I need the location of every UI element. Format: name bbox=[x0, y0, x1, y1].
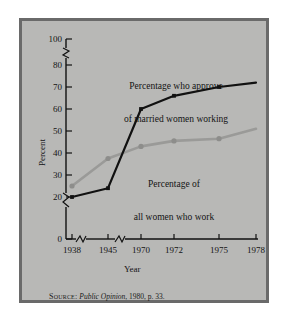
y-tick-label-0: 0 bbox=[42, 234, 62, 244]
annotation-approve-line2: of married women working bbox=[106, 114, 246, 125]
y-tick-label-20: 20 bbox=[42, 192, 62, 202]
annotation-all-women-line2: all women who work bbox=[120, 212, 228, 223]
annotation-all-women-line1: Percentage of bbox=[120, 179, 228, 190]
y-tick-label-100: 100 bbox=[42, 34, 62, 44]
chart-plot-area: 100 80 70 60 50 40 30 20 0 1938 1945 197… bbox=[22, 21, 266, 300]
figure-page: 100 80 70 60 50 40 30 20 0 1938 1945 197… bbox=[0, 0, 290, 326]
y-tick-label-30: 30 bbox=[42, 170, 62, 180]
y-tick-label-80: 80 bbox=[42, 60, 62, 70]
x-tick-label-1978: 1978 bbox=[239, 245, 273, 255]
annotation-approve-label: Percentage who approve of married women … bbox=[106, 59, 246, 147]
x-tick-label-1975: 1975 bbox=[202, 245, 236, 255]
y-axis-title: Percent bbox=[37, 139, 47, 166]
y-axis-ticks bbox=[66, 39, 72, 239]
source-note-rest: , 1980, p. 33. bbox=[125, 292, 164, 301]
annotation-approve-line1: Percentage who approve bbox=[106, 81, 246, 92]
x-tick-label-1972: 1972 bbox=[157, 245, 191, 255]
x-tick-label-1938: 1938 bbox=[55, 245, 89, 255]
annotation-all-women-label: Percentage of all women who work bbox=[120, 157, 228, 245]
y-tick-label-50: 50 bbox=[42, 126, 62, 136]
source-note-publication: Public Opinion bbox=[79, 292, 125, 301]
y-tick-label-70: 70 bbox=[42, 82, 62, 92]
x-axis-title: Year bbox=[124, 264, 141, 274]
x-tick-label-1945: 1945 bbox=[91, 245, 125, 255]
x-tick-label-1970: 1970 bbox=[124, 245, 158, 255]
source-note: Source: Public Opinion, 1980, p. 33. bbox=[34, 283, 165, 310]
y-tick-label-60: 60 bbox=[42, 104, 62, 114]
figure-frame: 100 80 70 60 50 40 30 20 0 1938 1945 197… bbox=[19, 18, 269, 303]
source-note-prefix: Source: bbox=[49, 292, 77, 301]
